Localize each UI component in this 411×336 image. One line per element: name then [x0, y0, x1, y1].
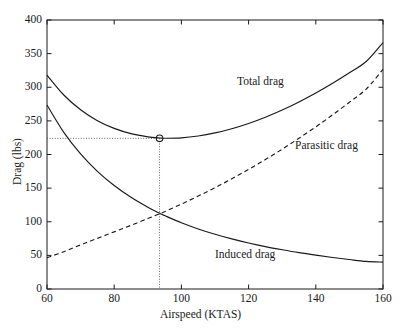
induced-drag-label: Induced drag: [215, 249, 275, 261]
y-tick-label-350: 350: [14, 48, 42, 60]
x-tick-label-60: 60: [30, 293, 64, 305]
y-tick-label-250: 250: [14, 115, 42, 127]
y-tick-label-100: 100: [14, 216, 42, 228]
x-tick-label-160: 160: [366, 293, 400, 305]
x-tick-label-80: 80: [97, 293, 131, 305]
x-tick-label-100: 100: [164, 293, 198, 305]
y-tick-label-400: 400: [14, 14, 42, 26]
x-axis-title: Airspeed (KTAS): [160, 309, 241, 321]
total-drag-label: Total drag: [237, 76, 284, 88]
series-curve-total-drag: [47, 43, 383, 139]
y-axis-title: Drag (lbs): [12, 138, 24, 185]
drag-vs-airspeed-chart: 400 350 300 250 200 150 100 50 0 60 80 1…: [0, 0, 411, 336]
x-tick-label-140: 140: [299, 293, 333, 305]
plot-canvas: [0, 0, 411, 336]
parasitic-drag-label: Parasitic drag: [295, 140, 358, 152]
series-curve-parasitic-drag: [47, 69, 383, 257]
y-tick-label-300: 300: [14, 81, 42, 93]
x-tick-label-120: 120: [232, 293, 266, 305]
y-tick-label-50: 50: [14, 249, 42, 261]
